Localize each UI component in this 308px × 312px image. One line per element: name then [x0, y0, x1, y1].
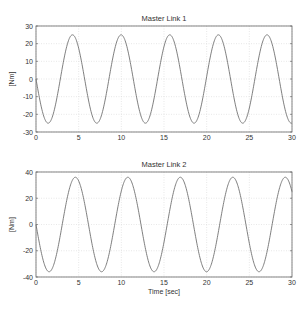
y-tick-label: 10 — [25, 58, 33, 65]
y-tick-label: 0 — [29, 221, 33, 228]
chart-title: Master Link 2 — [141, 160, 186, 169]
x-tick-label: 5 — [77, 134, 81, 141]
x-tick-label: 25 — [245, 134, 253, 141]
figure: 051015202530-30-20-100102030Master Link … — [0, 0, 308, 312]
y-tick-label: -40 — [23, 274, 33, 281]
x-tick-label: 0 — [34, 279, 38, 286]
x-tick-label: 10 — [117, 279, 125, 286]
x-tick-label: 10 — [117, 134, 125, 141]
y-tick-label: -20 — [23, 111, 33, 118]
x-tick-label: 20 — [203, 134, 211, 141]
plot-master-link-1: 051015202530-30-20-100102030Master Link … — [8, 14, 296, 141]
x-tick-label: 30 — [288, 134, 296, 141]
x-axis-label: Time [sec] — [148, 288, 180, 296]
y-tick-label: 20 — [25, 195, 33, 202]
chart-title: Master Link 1 — [141, 14, 186, 23]
y-tick-label: 40 — [25, 169, 33, 176]
x-tick-label: 15 — [160, 279, 168, 286]
plot-master-link-2: 051015202530-40-2002040Master Link 2[Nm]… — [8, 160, 296, 296]
y-tick-label: 0 — [29, 76, 33, 83]
x-tick-label: 30 — [288, 279, 296, 286]
y-tick-label: -30 — [23, 129, 33, 136]
x-tick-label: 15 — [160, 134, 168, 141]
x-tick-label: 25 — [245, 279, 253, 286]
y-tick-label: 30 — [25, 23, 33, 30]
y-tick-label: -20 — [23, 247, 33, 254]
x-tick-label: 20 — [203, 279, 211, 286]
y-axis-label: [Nm] — [8, 72, 16, 87]
x-tick-label: 5 — [77, 279, 81, 286]
y-axis-label: [Nm] — [8, 217, 16, 232]
y-tick-label: 20 — [25, 40, 33, 47]
y-tick-label: -10 — [23, 93, 33, 100]
x-tick-label: 0 — [34, 134, 38, 141]
